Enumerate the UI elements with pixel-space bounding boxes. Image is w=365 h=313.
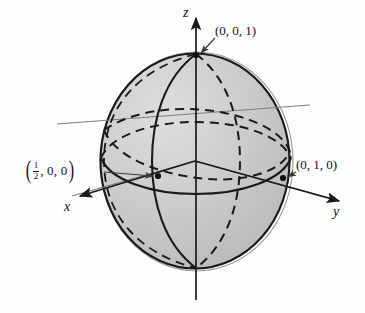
leader-north-pole [201, 38, 215, 53]
marker-y-intercept [280, 175, 286, 181]
z-axis-label: z [183, 6, 188, 20]
x-axis-label: x [64, 200, 70, 214]
fraction-numerator: 1 [33, 161, 40, 170]
marker-north-pole [193, 52, 199, 58]
y-intercept-label: (0, 1, 0) [296, 158, 337, 171]
sphere-diagram: z y x (0, 0, 1) (0, 1, 0) ( 1 2 , 0, 0 ) [0, 0, 365, 313]
x-intercept-label: ( 1 2 , 0, 0 ) [24, 158, 76, 184]
one-half-fraction: 1 2 [33, 161, 40, 180]
paren-close: ) [69, 157, 74, 183]
x-intercept-label-rest: , 0, 0 [40, 163, 67, 179]
fraction-denominator: 2 [33, 171, 40, 181]
north-pole-label: (0, 0, 1) [215, 24, 256, 37]
marker-x-intercept [155, 173, 161, 179]
paren-open: ( [26, 157, 31, 183]
y-axis-label: y [333, 205, 339, 219]
